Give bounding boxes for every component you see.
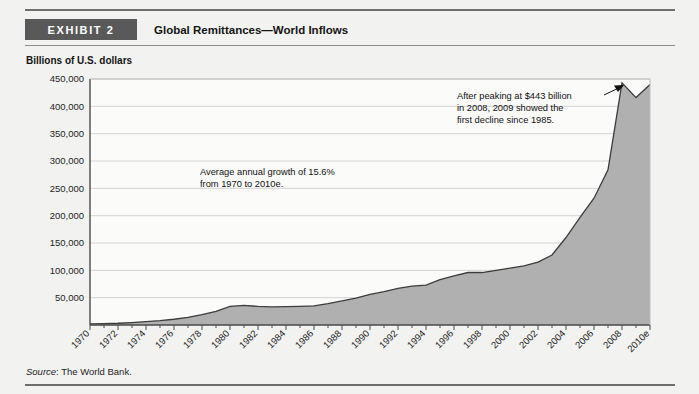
remittances-area-chart: 50,000100,000150,000200,000250,000300,00… (0, 0, 699, 394)
x-tick-label: 1990 (349, 328, 372, 351)
x-tick-label: 1972 (97, 328, 120, 351)
y-tick-label: 100,000 (50, 265, 84, 276)
x-tick-label: 1984 (265, 328, 288, 351)
y-tick-label: 150,000 (50, 237, 84, 248)
y-tick-label: 400,000 (50, 101, 84, 112)
x-tick-label: 1982 (237, 328, 260, 351)
x-tick-label: 1988 (321, 328, 344, 351)
chart-svg: 50,000100,000150,000200,000250,000300,00… (0, 0, 699, 394)
x-tick-label: 1978 (181, 328, 204, 351)
y-axis-tick-labels: 50,000100,000150,000200,000250,000300,00… (50, 73, 84, 303)
exhibit-page: EXHIBIT 2 Global Remittances—World Inflo… (0, 0, 699, 394)
growth-annotation-line-2: from 1970 to 2010e. (200, 179, 283, 189)
x-tick-label: 2004 (545, 328, 568, 351)
x-tick-label: 1986 (293, 328, 316, 351)
x-tick-label: 1992 (377, 328, 400, 351)
y-tick-label: 50,000 (55, 292, 84, 303)
source-note: Source: The World Bank. (26, 366, 132, 377)
source-label: Source (26, 366, 56, 377)
peak-annotation-line-2: in 2008, 2009 showed the (457, 103, 563, 113)
x-tick-label: 1996 (433, 328, 456, 351)
x-tick-label: 2006 (573, 328, 596, 351)
x-tick-label: 1998 (461, 328, 484, 351)
peak-annotation-line-1: After peaking at $443 billion (457, 91, 572, 101)
y-tick-label: 250,000 (50, 183, 84, 194)
x-tick-label: 2010e (625, 328, 651, 354)
x-tick-label: 1970 (69, 328, 92, 351)
x-tick-label: 1980 (209, 328, 232, 351)
x-tick-label: 1974 (125, 328, 148, 351)
x-tick-label: 2008 (601, 328, 624, 351)
x-tick-label: 2000 (489, 328, 512, 351)
x-axis-tick-labels: 1970197219741976197819801982198419861988… (69, 328, 652, 354)
y-tick-label: 300,000 (50, 155, 84, 166)
peak-annotation-line-3: first decline since 1985. (457, 115, 554, 125)
bottom-divider-rule (25, 384, 675, 386)
x-tick-label: 2002 (517, 328, 540, 351)
y-tick-label: 450,000 (50, 73, 84, 84)
y-tick-label: 350,000 (50, 128, 84, 139)
source-text: The World Bank. (61, 366, 132, 377)
x-tick-label: 1976 (153, 328, 176, 351)
x-axis-ticks (90, 325, 650, 330)
growth-annotation-line-1: Average annual growth of 15.6% (200, 167, 335, 177)
x-tick-label: 1994 (405, 328, 428, 351)
y-tick-label: 200,000 (50, 210, 84, 221)
